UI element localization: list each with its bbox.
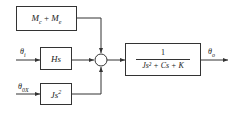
input-theta-i-label: θi [20, 48, 26, 59]
js2-block: Js2 [40, 83, 72, 105]
hs-block: Hs [40, 47, 72, 70]
numerator: 1 [161, 48, 165, 58]
fraction-bar [136, 59, 190, 60]
disturbance-label: Mc + Me [32, 13, 62, 25]
summing-junction [95, 54, 107, 66]
plant-block: 1 Js² + Cs + K [125, 43, 201, 76]
denominator: Js² + Cs + K [142, 61, 184, 71]
output-theta-o-label: θo [208, 48, 215, 59]
hs-label: Hs [51, 54, 61, 64]
transfer-function: 1 Js² + Cs + K [136, 48, 190, 71]
input-theta-0x-label: θ0X [18, 83, 29, 94]
js2-label: Js2 [51, 89, 62, 100]
disturbance-block: Mc + Me [16, 6, 77, 31]
